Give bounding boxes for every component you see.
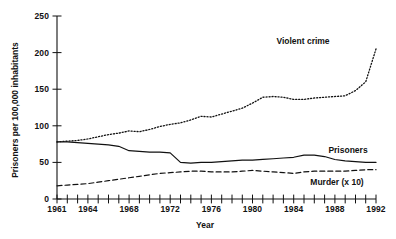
x-tick-label-1984: 1984 (284, 204, 303, 214)
chart-container: Prisoners per 100,000 inhabitants 250 20… (0, 0, 396, 239)
y-tick-label-200: 200 (35, 48, 50, 58)
y-axis-title-group: Prisoners per 100,000 inhabitants (10, 42, 20, 178)
x-tick-label-1964: 1964 (78, 204, 97, 214)
series-line-violent-crime (57, 49, 376, 142)
x-tick-label-1980: 1980 (243, 204, 262, 214)
x-axis-title: Year (196, 220, 215, 230)
y-axis-title: Prisoners per 100,000 inhabitants (10, 42, 20, 178)
y-tick-label-0: 0 (44, 194, 49, 204)
x-tick-label-1988: 1988 (325, 204, 344, 214)
y-tick-label-100: 100 (35, 121, 50, 131)
x-tick-label-1961: 1961 (47, 204, 66, 214)
y-tick-label-150: 150 (35, 84, 50, 94)
x-tick-label-1976: 1976 (202, 204, 221, 214)
data-series-group (57, 49, 376, 186)
y-axis-tick-labels: 250 200 150 100 50 0 (35, 11, 50, 204)
x-tick-label-1972: 1972 (161, 204, 180, 214)
series-annotations: Violent crime Prisoners Murder (x 10) (276, 36, 367, 187)
line-chart: Prisoners per 100,000 inhabitants 250 20… (0, 0, 396, 239)
series-label-murder: Murder (x 10) (310, 177, 364, 187)
series-label-prisoners: Prisoners (328, 145, 367, 155)
y-tick-label-250: 250 (35, 11, 50, 21)
series-label-violent-crime: Violent crime (276, 36, 329, 46)
x-tick-label-1992: 1992 (366, 204, 385, 214)
x-tick-label-1968: 1968 (119, 204, 138, 214)
x-axis-tick-labels: 1961 1964 1968 1972 1976 1980 1984 1988 … (47, 204, 385, 214)
y-tick-label-50: 50 (39, 157, 49, 167)
